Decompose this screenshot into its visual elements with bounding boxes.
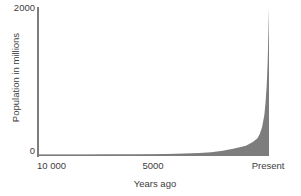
y-axis-tick-label-0: 0 <box>2 145 35 156</box>
plot-area <box>38 8 269 156</box>
chart-canvas <box>38 8 269 156</box>
population-area-series <box>38 9 269 156</box>
x-axis-title: Years ago <box>100 178 210 189</box>
population-growth-chart: 2000 0 10 000 5000 Present Years ago Pop… <box>0 0 301 196</box>
y-axis-tick-label-2000: 2000 <box>2 2 35 13</box>
population-area-path <box>38 9 269 156</box>
x-axis-tick-label-present: Present <box>238 160 298 171</box>
x-axis-tick-label-10000: 10 000 <box>37 160 66 171</box>
x-axis-tick-label-5000: 5000 <box>131 160 175 171</box>
y-axis-title: Population in millions <box>10 13 21 143</box>
